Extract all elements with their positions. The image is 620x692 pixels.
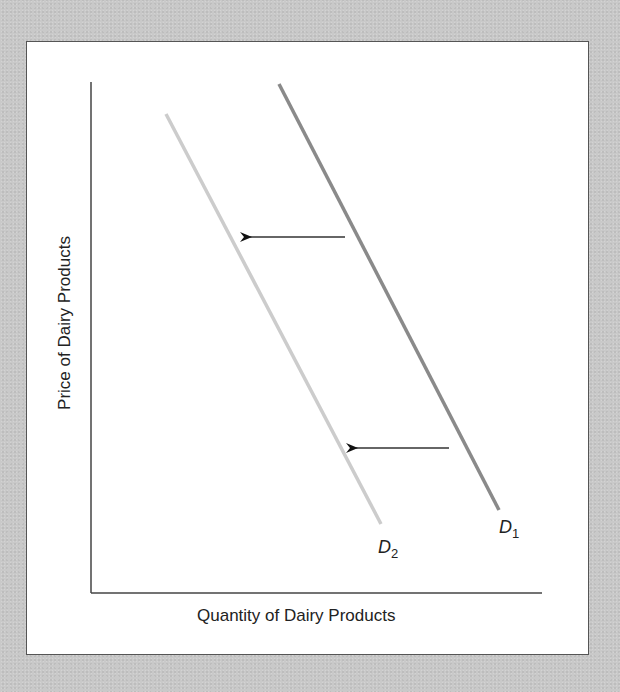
y-axis-label: Price of Dairy Products [55, 236, 75, 410]
d1-subscript: 1 [512, 526, 519, 541]
d2-label: D2 [378, 537, 398, 561]
d1-letter: D [499, 517, 512, 537]
x-axis-label: Quantity of Dairy Products [197, 606, 395, 626]
demand-shift-diagram [0, 0, 620, 692]
demand-curve-d1 [279, 84, 499, 510]
d2-letter: D [378, 537, 391, 557]
demand-curve-d2 [166, 114, 381, 524]
d2-subscript: 2 [391, 546, 398, 561]
d1-label: D1 [499, 517, 519, 541]
